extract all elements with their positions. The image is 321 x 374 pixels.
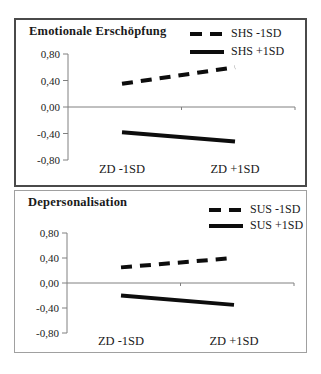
chart-title: Depersonalisation [28,195,127,210]
dashed-line-sample [209,208,243,212]
x-category-label: ZD +1SD [210,162,259,176]
y-tick-label: 0,00 [41,101,61,113]
solid-line-sample [209,224,243,228]
dashed-line-sample [190,32,224,36]
y-tick-label: -0,80 [37,154,60,166]
figure: 0,800,400,00-0,40-0,80ZD -1SDZD +1SD Emo… [0,0,321,374]
legend: SUS -1SD SUS +1SD [209,202,303,233]
x-category-label: ZD -1SD [99,162,145,176]
x-category-label: ZD +1SD [209,334,258,348]
legend-item: SUS +1SD [209,218,303,233]
legend-label: SHS +1SD [231,44,284,59]
series-line-shs-1sd [122,132,235,141]
chart-panel-depersonalisation: 0,800,400,00-0,40-0,80ZD -1SDZD +1SD Dep… [14,190,307,353]
series-line-sus-1sd [121,296,234,305]
legend-item: SHS +1SD [190,44,284,59]
legend-item: SHS -1SD [190,26,284,41]
legend-label: SUS +1SD [250,218,303,233]
y-tick-label: -0,80 [36,327,59,339]
y-tick-label: 0,80 [41,48,61,60]
y-tick-label: 0,80 [40,227,60,239]
y-tick-label: 0,40 [40,252,60,264]
legend-item: SUS -1SD [209,202,303,217]
y-tick-label: 0,00 [40,277,60,289]
y-tick-label: 0,40 [41,75,61,87]
chart-panel-emotionale-erschoepfung: 0,800,400,00-0,40-0,80ZD -1SDZD +1SD Emo… [14,18,307,187]
chart-title: Emotionale Erschöpfung [29,24,166,39]
series-line-sus-1sd [121,258,234,267]
legend-label: SHS -1SD [231,26,281,41]
legend-label: SUS -1SD [250,202,300,217]
series-line-shs-1sd [122,67,235,84]
x-category-label: ZD -1SD [98,334,144,348]
y-tick-label: -0,40 [36,302,59,314]
y-tick-label: -0,40 [37,128,60,140]
legend: SHS -1SD SHS +1SD [190,26,284,59]
solid-line-sample [190,50,224,54]
